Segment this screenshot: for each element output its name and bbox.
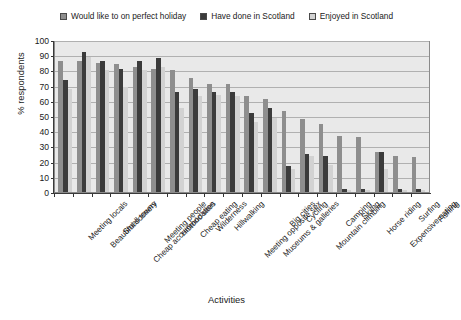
bar-group: [186, 42, 205, 192]
legend-label: Enjoyed in Scotland: [320, 12, 393, 20]
bar: [347, 190, 352, 192]
bar: [384, 169, 389, 192]
bar-group: [316, 42, 335, 192]
bar-group: [354, 42, 373, 192]
bar-group: [56, 42, 75, 192]
bar: [365, 190, 370, 192]
x-tick-mark: [186, 194, 187, 197]
legend-label: Have done in Scotland: [211, 12, 295, 20]
x-tick-mark: [355, 194, 356, 197]
bar-group: [261, 42, 280, 192]
legend-swatch-icon: [200, 13, 207, 20]
y-tick-label: 20: [39, 158, 49, 167]
bar: [291, 169, 296, 192]
bar: [68, 89, 73, 192]
x-tick-mark: [129, 194, 130, 197]
legend-item: Have done in Scotland: [200, 12, 295, 20]
y-tick-label: 70: [39, 82, 49, 91]
y-axis: 0102030405060708090100: [24, 41, 54, 193]
x-axis-labels: Meeting localsBeautiful scenerySmall tow…: [54, 198, 430, 284]
legend-swatch-icon: [309, 13, 316, 20]
bar: [198, 96, 203, 192]
bar-group: [93, 42, 112, 192]
bar: [356, 137, 361, 192]
bar-group: [168, 42, 187, 192]
bar-group: [75, 42, 94, 192]
x-tick-mark: [92, 194, 93, 197]
x-tick-label: Horse riding: [385, 200, 422, 237]
bar: [105, 70, 110, 192]
bar: [161, 67, 166, 192]
y-tick-label: 40: [39, 128, 49, 137]
x-tick-mark: [411, 194, 412, 197]
y-tick-label: 60: [39, 98, 49, 107]
bar: [179, 108, 184, 192]
bar: [309, 156, 314, 192]
y-tick-label: 30: [39, 143, 49, 152]
bar: [402, 190, 407, 192]
x-tick-mark: [392, 194, 393, 197]
bar: [254, 122, 259, 192]
y-tick-label: 100: [35, 37, 49, 46]
bar: [272, 118, 277, 192]
x-tick-mark: [223, 194, 224, 197]
chart-legend: Would like to on perfect holidayHave don…: [0, 12, 453, 20]
bar-group: [223, 42, 242, 192]
bar: [123, 87, 128, 192]
bar-series-container: [55, 42, 429, 192]
x-tick-mark: [110, 194, 111, 197]
bar: [412, 157, 417, 192]
x-tick-mark: [298, 194, 299, 197]
x-tick-mark: [336, 194, 337, 197]
bar: [216, 95, 221, 192]
bar: [421, 190, 426, 192]
x-tick-mark: [242, 194, 243, 197]
y-tick-label: 80: [39, 67, 49, 76]
bar-group: [149, 42, 168, 192]
bar-group: [205, 42, 224, 192]
bar-group: [130, 42, 149, 192]
legend-label: Would like to on perfect holiday: [71, 12, 186, 20]
legend-item: Would like to on perfect holiday: [60, 12, 186, 20]
bar: [328, 165, 333, 192]
x-tick-label: Meeting people: [163, 200, 208, 245]
x-tick-mark: [167, 194, 168, 197]
x-tick-mark: [280, 194, 281, 197]
x-tick-label: Fishing: [437, 200, 461, 224]
bar-group: [372, 42, 391, 192]
x-tick-mark: [261, 194, 262, 197]
bar-group: [112, 42, 131, 192]
x-tick-mark: [204, 194, 205, 197]
legend-swatch-icon: [60, 13, 67, 20]
bar: [142, 70, 147, 192]
x-axis-title: Activities: [0, 294, 453, 305]
bar-group: [298, 42, 317, 192]
bar-group: [409, 42, 428, 192]
legend-item: Enjoyed in Scotland: [309, 12, 393, 20]
bar-group: [242, 42, 261, 192]
bar-group: [335, 42, 354, 192]
bar: [393, 156, 398, 192]
y-tick-label: 0: [44, 189, 49, 198]
y-axis-title: % respondents: [15, 24, 26, 144]
x-tick-mark: [317, 194, 318, 197]
x-tick-mark: [54, 194, 55, 197]
y-tick-label: 50: [39, 113, 49, 122]
y-tick-label: 90: [39, 52, 49, 61]
x-tick-mark: [374, 194, 375, 197]
bar-group: [279, 42, 298, 192]
bar-group: [391, 42, 410, 192]
bar: [337, 136, 342, 192]
bar: [86, 57, 91, 192]
plot-area: [54, 41, 430, 193]
x-tick-mark: [73, 194, 74, 197]
bar: [235, 96, 240, 192]
x-tick-mark: [148, 194, 149, 197]
y-tick-label: 10: [39, 174, 49, 183]
